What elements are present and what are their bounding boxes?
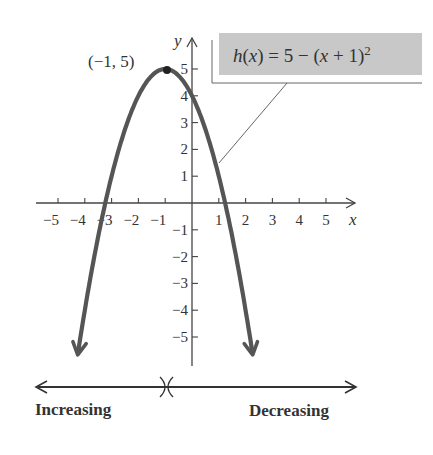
equation-text: h(x) = 5 − (x + 1)2 (233, 43, 371, 68)
decreasing-label: Decreasing (249, 401, 329, 420)
vertex-label: (−1, 5) (88, 52, 134, 71)
x-tick-label: −2 (123, 212, 139, 228)
x-tick-label: 5 (322, 212, 330, 228)
y-tick-label: −2 (172, 249, 188, 265)
y-tick-label: −1 (172, 222, 188, 238)
parabola-curve (79, 69, 252, 347)
equation-legend: h(x) = 5 − (x + 1)2 (212, 33, 422, 163)
y-axis-label: y (172, 31, 182, 50)
y-tick-label: 3 (181, 115, 189, 131)
x-tick-label: 3 (269, 212, 277, 228)
parabola-chart: −5−4−3−2−112345 x 54321−1−2−3−4−5 y (−1,… (0, 0, 433, 455)
y-tick-label: 1 (181, 168, 189, 184)
x-axis-label: x (348, 210, 357, 229)
x-tick-label: −1 (150, 212, 166, 228)
y-tick-label: −3 (172, 275, 188, 291)
x-tick-label: 2 (242, 212, 250, 228)
y-tick-label: −5 (172, 329, 188, 345)
y-tick-label: 2 (181, 141, 189, 157)
y-tick-label: 5 (181, 61, 189, 77)
y-tick-label: −4 (172, 302, 188, 318)
leader-line (219, 83, 287, 163)
x-tick-label: −4 (70, 212, 86, 228)
x-axis: −5−4−3−2−112345 x (36, 198, 357, 229)
vertex-point (163, 66, 171, 74)
x-tick-label: 4 (295, 212, 303, 228)
x-tick-label: 1 (215, 212, 223, 228)
monotonic-interval-line: Increasing Decreasing (35, 377, 356, 420)
increasing-label: Increasing (35, 400, 112, 419)
x-tick-label: −5 (43, 212, 59, 228)
